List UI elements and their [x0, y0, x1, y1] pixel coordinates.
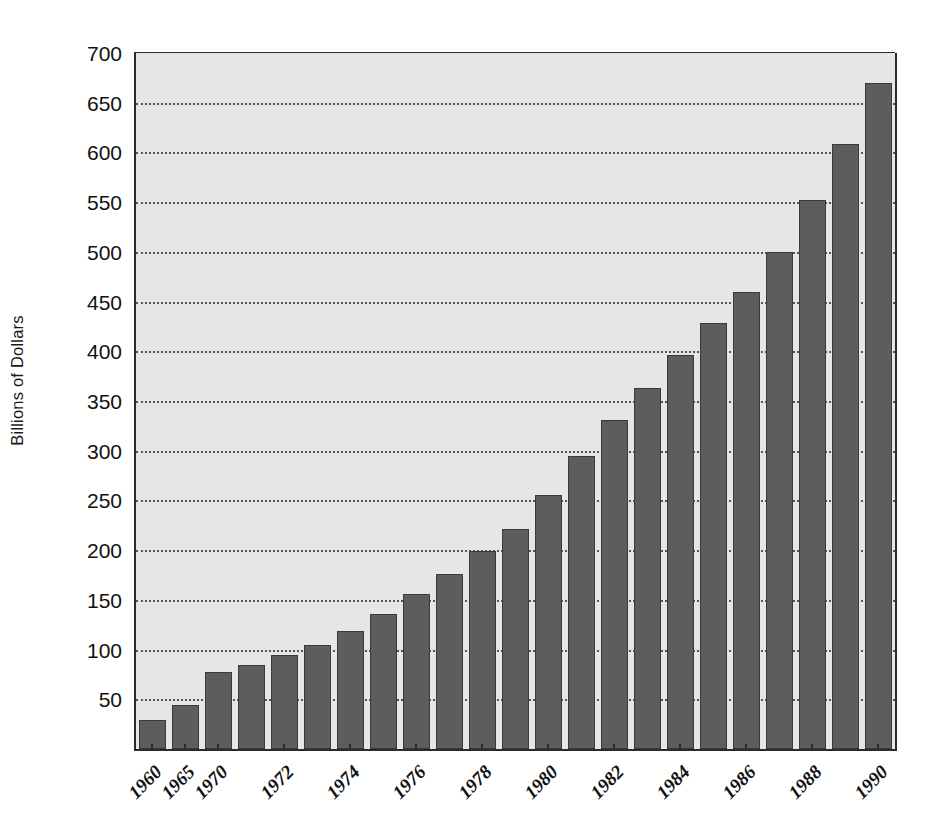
- y-axis-tick-label: 300: [87, 440, 122, 461]
- y-axis-tick-label: 450: [87, 291, 122, 312]
- bar: [205, 672, 231, 749]
- bar: [601, 420, 627, 749]
- bar: [535, 495, 561, 749]
- bar: [700, 323, 726, 749]
- y-axis-title: Billions of Dollars: [0, 0, 34, 760]
- y-axis-tick-label: 350: [87, 391, 122, 412]
- bar: [766, 252, 792, 749]
- bar: [799, 200, 825, 749]
- x-axis-tick-label: 1980: [520, 761, 562, 803]
- y-axis-tick-label: 500: [87, 241, 122, 262]
- x-axis-tick-mark: [679, 744, 681, 751]
- x-axis-tick-mark: [745, 744, 747, 751]
- bar: [568, 456, 594, 749]
- bar: [865, 83, 891, 749]
- y-axis-tick-label: 50: [99, 689, 122, 710]
- bar: [337, 631, 363, 749]
- bar: [436, 574, 462, 749]
- y-axis-tick-label: 250: [87, 490, 122, 511]
- bar: [667, 355, 693, 749]
- bar: [634, 388, 660, 749]
- y-axis-title-text: Billions of Dollars: [8, 315, 27, 445]
- bar: [304, 645, 330, 749]
- bar: [733, 292, 759, 749]
- y-axis-tick-labels: 7006506005505004504003503002502001501005…: [38, 0, 122, 836]
- y-axis-tick-label: 700: [87, 43, 122, 64]
- x-axis-tick-label: 1988: [784, 761, 826, 803]
- x-axis-tick-label: 1984: [652, 761, 694, 803]
- x-axis-tick-mark: [613, 744, 615, 751]
- bar: [238, 665, 264, 750]
- bar: [469, 551, 495, 749]
- x-axis-tick-label: 1982: [586, 761, 628, 803]
- y-axis-tick-label: 550: [87, 192, 122, 213]
- bar: [172, 705, 198, 749]
- x-axis-tick-label: 1960: [124, 761, 166, 803]
- y-axis-tick-label: 650: [87, 92, 122, 113]
- x-axis-tick-label: 1974: [322, 761, 364, 803]
- x-axis-tick-mark: [349, 744, 351, 751]
- bar: [832, 144, 858, 749]
- x-axis-tick-mark: [151, 744, 153, 751]
- x-axis-tick-label: 1972: [256, 761, 298, 803]
- x-axis-tick-mark: [283, 744, 285, 751]
- y-axis-tick-label: 150: [87, 589, 122, 610]
- x-axis-tick-mark: [217, 744, 219, 751]
- x-axis-tick-mark: [184, 744, 186, 751]
- bar-series: [136, 53, 895, 749]
- x-axis-tick-mark: [481, 744, 483, 751]
- bar: [403, 594, 429, 749]
- y-axis-tick-label: 100: [87, 639, 122, 660]
- bar: [370, 614, 396, 749]
- y-axis-tick-label: 200: [87, 540, 122, 561]
- x-axis-tick-label: 1965: [157, 761, 199, 803]
- x-axis-tick-mark: [415, 744, 417, 751]
- x-axis-tick-label: 1986: [718, 761, 760, 803]
- x-axis-tick-label: 1990: [850, 761, 892, 803]
- x-axis-tick-labels: 1960196519701972197419761978198019821984…: [134, 751, 895, 836]
- bar-chart-figure: Billions of Dollars 70065060055050045040…: [0, 0, 933, 836]
- y-axis-tick-label: 400: [87, 341, 122, 362]
- x-axis-tick-label: 1970: [190, 761, 232, 803]
- bar: [271, 655, 297, 749]
- plot-area: [134, 53, 897, 751]
- x-axis-tick-mark: [877, 744, 879, 751]
- x-axis-tick-label: 1976: [388, 761, 430, 803]
- x-axis-tick-mark: [811, 744, 813, 751]
- x-axis-tick-mark: [547, 744, 549, 751]
- bar: [502, 529, 528, 749]
- y-axis-tick-label: 600: [87, 142, 122, 163]
- x-axis-tick-label: 1978: [454, 761, 496, 803]
